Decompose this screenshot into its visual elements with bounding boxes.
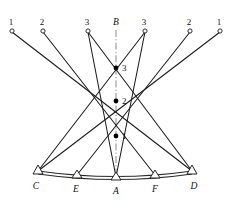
target-marker-right-3[interactable] bbox=[143, 29, 147, 33]
center-node-1[interactable] bbox=[114, 134, 119, 139]
station-label-D: D bbox=[190, 181, 198, 191]
center-node-label-2: 2 bbox=[122, 96, 127, 106]
target-label-left-1: 1 bbox=[9, 17, 14, 27]
ray-right2-to-E bbox=[77, 32, 190, 175]
target-marker-left-3[interactable] bbox=[86, 29, 90, 33]
center-node-label-3: 3 bbox=[122, 63, 127, 73]
station-label-C: C bbox=[33, 181, 40, 191]
diagram-canvas: 1 2 3 B 3 2 1 3 2 1 C E A F D bbox=[0, 0, 238, 201]
target-label-left-2: 2 bbox=[40, 17, 45, 27]
ray-left1-to-D bbox=[12, 32, 192, 171]
center-node-3[interactable] bbox=[114, 66, 119, 71]
station-label-A: A bbox=[112, 186, 119, 196]
triangulation-figure: 1 2 3 B 3 2 1 3 2 1 C E A F D bbox=[0, 0, 238, 201]
target-marker-left-2[interactable] bbox=[41, 29, 45, 33]
ray-right3-to-A bbox=[116, 32, 145, 177]
ray-D-to-left3 bbox=[88, 32, 192, 171]
target-label-right-3: 3 bbox=[142, 17, 147, 27]
target-marker-left-1[interactable] bbox=[10, 29, 14, 33]
axis-label-B: B bbox=[113, 17, 119, 27]
ray-group bbox=[12, 32, 220, 177]
center-node-2[interactable] bbox=[114, 99, 119, 104]
target-marker-right-1[interactable] bbox=[218, 29, 222, 33]
target-label-right-1: 1 bbox=[217, 17, 222, 27]
target-marker-right-2[interactable] bbox=[188, 29, 192, 33]
station-label-E: E bbox=[72, 184, 79, 194]
center-node-label-1: 1 bbox=[122, 131, 127, 141]
target-label-left-3: 3 bbox=[85, 17, 90, 27]
target-label-right-2: 2 bbox=[187, 17, 192, 27]
ray-left2-to-F bbox=[43, 32, 155, 175]
station-label-F: F bbox=[151, 184, 158, 194]
